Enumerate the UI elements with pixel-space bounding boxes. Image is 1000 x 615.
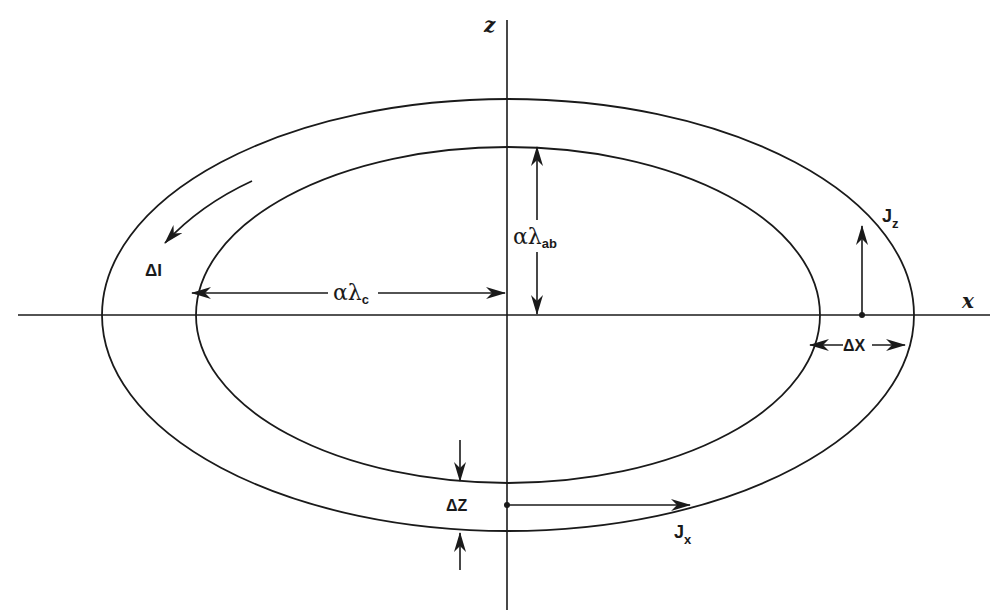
jz-label: Jz <box>882 206 899 231</box>
delta-i-arrow <box>165 181 252 243</box>
alpha-lambda-ab-label: αλab <box>513 224 557 251</box>
jx-label: Jx <box>674 522 692 547</box>
z-axis-label: z <box>483 13 496 37</box>
delta-i-label: ΔI <box>145 261 162 280</box>
delta-z-label: ΔZ <box>446 497 468 514</box>
elliptical-shell-diagram: z x ΔI αλc αλab Jz ΔX ΔZ Jx <box>0 0 1000 615</box>
x-axis-label: x <box>961 289 975 313</box>
alpha-lambda-c-label: αλc <box>333 280 369 307</box>
delta-x-label: ΔX <box>843 337 866 354</box>
